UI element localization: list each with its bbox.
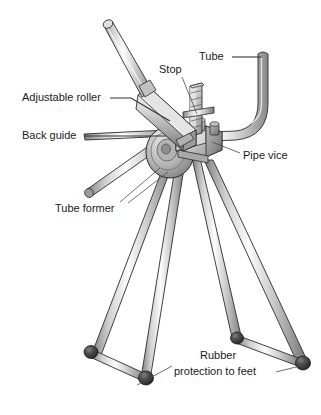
vice-knob-right (210, 122, 219, 135)
handle-bar (102, 18, 156, 97)
label-tube-former: Tube former (55, 202, 115, 214)
label-tube: Tube (199, 50, 224, 62)
foot-cap-right-inner (231, 332, 244, 344)
crossbar-left (90, 350, 146, 381)
label-rubber-protection-line-2: protection to feet (174, 365, 256, 377)
leader-rubber-right (276, 366, 300, 372)
label-pipe-vice: Pipe vice (243, 149, 288, 161)
tube-bender-diagram: Tube Stop Adjustable roller Back guide P… (0, 0, 321, 415)
foot-cap-right-outer (296, 356, 311, 370)
tripod-legs (84, 158, 311, 385)
label-stop: Stop (159, 63, 182, 75)
leg-front-left (141, 162, 185, 380)
label-adjustable-roller: Adjustable roller (22, 91, 101, 103)
foot-cap-left-outer (84, 346, 98, 359)
label-back-guide: Back guide (22, 129, 76, 141)
label-rubber-protection-line-1: Rubber (200, 349, 236, 361)
